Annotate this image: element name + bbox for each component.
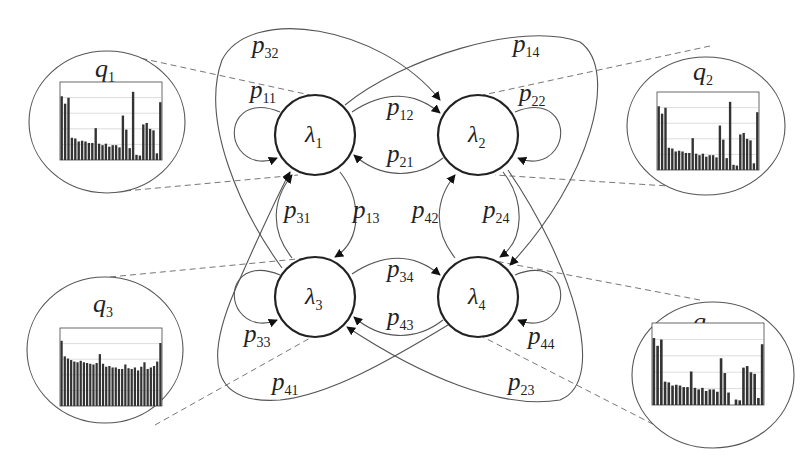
label-p41: p41	[270, 368, 299, 398]
label-p44: p44	[526, 322, 555, 352]
emission-plot-q3: q3	[27, 277, 183, 423]
emission-plot-q2: q2	[627, 57, 785, 195]
state-node-2: λ2	[438, 95, 518, 175]
emission-plot-q4: q4	[632, 302, 794, 448]
label-p24: p24	[481, 196, 510, 226]
emission-connectors	[110, 46, 715, 438]
state-node-4: λ4	[438, 257, 518, 337]
label-p43: p43	[385, 303, 414, 333]
label-p33: p33	[242, 320, 271, 350]
label-p32: p32	[250, 31, 279, 61]
label-p23: p23	[506, 368, 535, 398]
state-node-3: λ3	[275, 257, 355, 337]
state-node-1: λ1	[275, 95, 355, 175]
emission-plot-q1: q1	[29, 51, 185, 193]
label-p13: p13	[351, 196, 380, 226]
transition-labels: p11 p12 p13 p14 p21 p22 p23 p24 p31 p32 …	[242, 30, 555, 398]
label-p42: p42	[410, 196, 439, 226]
label-p14: p14	[511, 30, 540, 60]
hmm-diagram: λ1 λ2 λ3 λ4 p11 p12 p13 p14 p21 p22 p23 …	[0, 0, 806, 464]
label-p22: p22	[517, 79, 546, 109]
label-p21: p21	[385, 140, 414, 170]
label-p31: p31	[282, 196, 311, 226]
label-p11: p11	[248, 76, 276, 106]
